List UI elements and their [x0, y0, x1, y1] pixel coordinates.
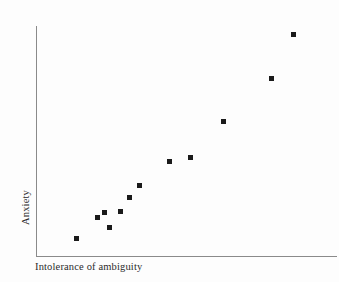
data-point [74, 236, 79, 241]
data-point [95, 215, 100, 220]
y-axis-label: Anxiety [20, 180, 31, 236]
y-axis-line [36, 26, 37, 256]
data-point [221, 119, 226, 124]
plot-area [0, 0, 339, 282]
data-point [269, 76, 274, 81]
scatter-plot-figure: Intolerance of ambiguity Anxiety [0, 0, 339, 282]
data-point [118, 209, 123, 214]
x-axis-label: Intolerance of ambiguity [35, 261, 142, 272]
data-point [167, 159, 172, 164]
x-axis-line [36, 256, 337, 257]
data-point [102, 210, 107, 215]
data-point [137, 183, 142, 188]
data-point [291, 32, 296, 37]
data-point [188, 155, 193, 160]
data-point [127, 195, 132, 200]
data-point [107, 225, 112, 230]
